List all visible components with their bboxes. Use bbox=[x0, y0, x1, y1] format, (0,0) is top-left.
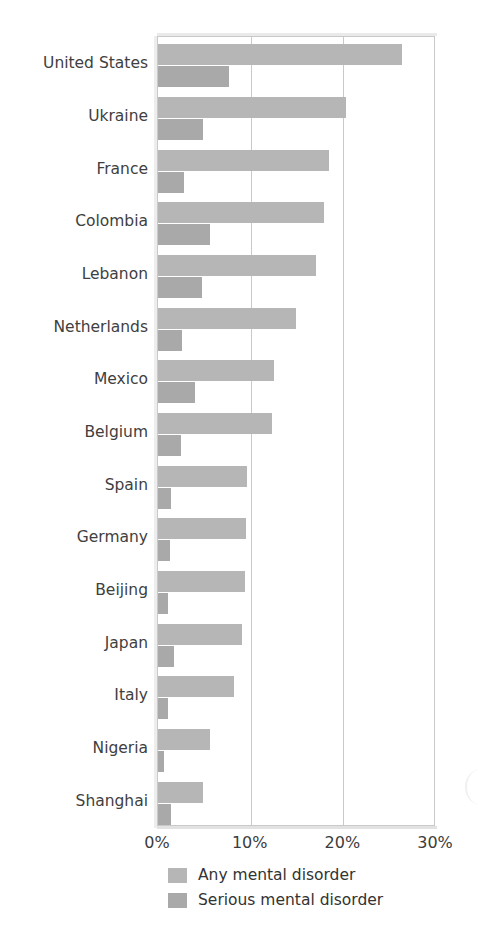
category-label: Japan bbox=[0, 634, 148, 652]
bar-serious bbox=[158, 540, 170, 561]
bar-any bbox=[158, 676, 234, 697]
bar-serious bbox=[158, 330, 182, 351]
bar-serious bbox=[158, 119, 203, 140]
bar-serious bbox=[158, 172, 184, 193]
legend-swatch-serious bbox=[168, 893, 187, 908]
bar-group bbox=[158, 571, 434, 613]
bar-serious bbox=[158, 804, 171, 825]
bar-group bbox=[158, 308, 434, 350]
category-label: Lebanon bbox=[0, 265, 148, 283]
x-tick-label: 10% bbox=[232, 833, 268, 852]
category-label: Spain bbox=[0, 476, 148, 494]
category-label: Shanghai bbox=[0, 792, 148, 810]
x-tick-label: 20% bbox=[325, 833, 361, 852]
bar-any bbox=[158, 571, 245, 592]
x-tick-label: 30% bbox=[417, 833, 453, 852]
bar-serious bbox=[158, 751, 164, 772]
bar-any bbox=[158, 44, 402, 65]
x-axis-ticks: 0%10%20%30% bbox=[0, 833, 495, 857]
category-label: United States bbox=[0, 54, 148, 72]
chart-legend: Any mental disorderSerious mental disord… bbox=[168, 866, 383, 916]
category-label: Germany bbox=[0, 528, 148, 546]
category-label: Nigeria bbox=[0, 739, 148, 757]
legend-swatch-any bbox=[168, 868, 187, 883]
category-label: Beijing bbox=[0, 581, 148, 599]
bar-group bbox=[158, 782, 434, 824]
bar-serious bbox=[158, 66, 229, 87]
bar-serious bbox=[158, 435, 181, 456]
bar-any bbox=[158, 360, 274, 381]
bar-any bbox=[158, 413, 272, 434]
bar-serious bbox=[158, 224, 210, 245]
bar-group bbox=[158, 466, 434, 508]
bar-group bbox=[158, 413, 434, 455]
bar-group bbox=[158, 202, 434, 244]
bar-group bbox=[158, 44, 434, 86]
bar-any bbox=[158, 150, 329, 171]
bar-serious bbox=[158, 488, 171, 509]
category-label: France bbox=[0, 160, 148, 178]
legend-label: Serious mental disorder bbox=[198, 891, 383, 909]
bar-any bbox=[158, 202, 324, 223]
bar-serious bbox=[158, 277, 202, 298]
category-label: Italy bbox=[0, 686, 148, 704]
plot-bottom-shadow bbox=[157, 826, 437, 829]
bar-serious bbox=[158, 646, 174, 667]
bar-group bbox=[158, 729, 434, 771]
bar-any bbox=[158, 308, 296, 329]
bar-serious bbox=[158, 382, 195, 403]
chart-title-remnant bbox=[230, 0, 470, 6]
bar-any bbox=[158, 255, 316, 276]
bar-group bbox=[158, 624, 434, 666]
bar-any bbox=[158, 97, 346, 118]
legend-item: Serious mental disorder bbox=[168, 891, 383, 909]
bar-chart: United StatesUkraineFranceColombiaLebano… bbox=[0, 0, 495, 950]
bar-group bbox=[158, 150, 434, 192]
legend-item: Any mental disorder bbox=[168, 866, 383, 884]
category-label: Mexico bbox=[0, 370, 148, 388]
bar-group bbox=[158, 518, 434, 560]
legend-label: Any mental disorder bbox=[198, 866, 355, 884]
bar-group bbox=[158, 360, 434, 402]
plot-area bbox=[157, 36, 435, 826]
category-label: Netherlands bbox=[0, 318, 148, 336]
bar-any bbox=[158, 518, 246, 539]
x-tick-label: 0% bbox=[144, 833, 169, 852]
bar-group bbox=[158, 97, 434, 139]
category-label: Belgium bbox=[0, 423, 148, 441]
bar-serious bbox=[158, 593, 168, 614]
bar-any bbox=[158, 729, 210, 750]
scan-artifact bbox=[465, 770, 493, 804]
bar-group bbox=[158, 255, 434, 297]
bar-any bbox=[158, 466, 247, 487]
bar-any bbox=[158, 782, 203, 803]
bar-serious bbox=[158, 698, 168, 719]
category-label: Colombia bbox=[0, 212, 148, 230]
bar-group bbox=[158, 676, 434, 718]
bar-any bbox=[158, 624, 242, 645]
category-label: Ukraine bbox=[0, 107, 148, 125]
